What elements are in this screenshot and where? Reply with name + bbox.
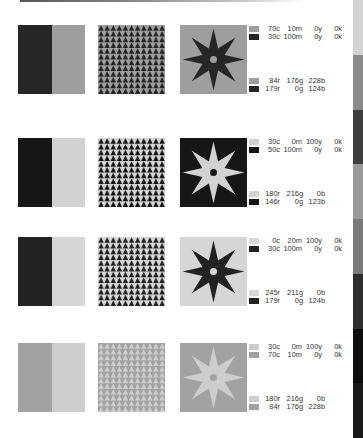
green-value: 0g	[280, 198, 303, 206]
green-value: 0g	[280, 85, 303, 93]
green-value: 176g	[280, 403, 303, 411]
magenta-value: 100m	[280, 146, 302, 154]
block-left-color	[18, 237, 52, 306]
split-color-block	[18, 237, 85, 306]
yellow-value: 0y	[302, 351, 322, 359]
color-swatch	[249, 404, 259, 410]
block-right-color	[52, 138, 86, 207]
yellow-value: 0y	[302, 33, 322, 41]
color-values-legend: 30c 0m 100y 0k 70c 10m 0y 0k 180r 216g 0…	[249, 343, 354, 413]
block-right-color	[52, 237, 86, 306]
block-left-color	[18, 25, 52, 94]
green-value: 0g	[280, 297, 303, 305]
magenta-value: 100m	[280, 33, 302, 41]
strip-band	[353, 383, 363, 438]
color-swatch	[249, 396, 259, 402]
swatch-row: 30c 0m 100y 0k 50c 100m 0y 0k 180r 216g …	[0, 138, 353, 208]
strip-band	[353, 55, 363, 110]
swatch-row: 30c 0m 100y 0k 70c 10m 0y 0k 180r 216g 0…	[0, 343, 353, 413]
strip-band	[353, 274, 363, 329]
color-swatch	[249, 34, 259, 40]
color-swatch	[249, 199, 259, 205]
black-value: 0k	[322, 351, 342, 359]
split-color-block	[18, 343, 85, 412]
block-right-color	[52, 343, 86, 412]
color-values-legend: 70c 10m 0y 0k 30c 100m 0y 0k 84r 176g 22…	[249, 25, 354, 95]
color-swatch	[249, 298, 259, 304]
color-swatch	[249, 246, 259, 252]
yellow-value: 0y	[302, 245, 322, 253]
cmyk-line: 70c 10m 0y 0k	[249, 351, 354, 359]
yellow-value: 0y	[302, 146, 322, 154]
cmyk-line: 30c 100m 0y 0k	[249, 245, 354, 253]
red-value: 146r	[261, 198, 280, 206]
cmyk-line: 30c 100m 0y 0k	[249, 33, 354, 41]
color-swatch	[249, 352, 259, 358]
cyan-value: 30c	[261, 245, 280, 253]
blue-value: 228b	[303, 403, 325, 411]
black-value: 0k	[322, 146, 342, 154]
color-swatch	[249, 344, 259, 350]
color-swatch	[249, 26, 259, 32]
color-swatch	[249, 290, 259, 296]
blue-value: 124b	[303, 85, 325, 93]
color-values-legend: 30c 0m 100y 0k 50c 100m 0y 0k 180r 216g …	[249, 138, 354, 208]
triangle-pattern	[98, 237, 165, 306]
star-icon	[180, 343, 247, 412]
red-value: 84r	[261, 403, 280, 411]
cyan-value: 50c	[261, 146, 280, 154]
strip-band	[353, 0, 363, 55]
red-value: 179r	[261, 297, 280, 305]
color-swatch	[249, 78, 259, 84]
red-value: 179r	[261, 85, 280, 93]
triangle-pattern	[98, 25, 165, 94]
top-rule	[20, 0, 305, 2]
strip-band	[353, 329, 363, 384]
block-left-color	[18, 343, 52, 412]
swatch-row: 70c 10m 0y 0k 30c 100m 0y 0k 84r 176g 22…	[0, 25, 353, 95]
split-color-block	[18, 25, 85, 94]
strip-band	[353, 219, 363, 274]
split-color-block	[18, 138, 85, 207]
color-swatch	[249, 191, 259, 197]
rgb-line: 84r 176g 228b	[249, 403, 354, 411]
swatch-row: 0c 20m 100y 0k 30c 100m 0y 0k 245r 211g …	[0, 237, 353, 307]
triangle-pattern	[98, 138, 165, 207]
strip-band	[353, 110, 363, 165]
cyan-value: 30c	[261, 33, 280, 41]
rgb-line: 179r 0g 124b	[249, 297, 354, 305]
strip-band	[353, 164, 363, 219]
black-value: 0k	[322, 245, 342, 253]
magenta-value: 10m	[280, 351, 302, 359]
blue-value: 123b	[303, 198, 325, 206]
star-icon	[180, 237, 247, 306]
color-values-legend: 0c 20m 100y 0k 30c 100m 0y 0k 245r 211g …	[249, 237, 354, 307]
block-right-color	[52, 25, 86, 94]
edge-color-strip	[353, 0, 363, 438]
magenta-value: 100m	[280, 245, 302, 253]
color-swatch	[249, 139, 259, 145]
cyan-value: 70c	[261, 351, 280, 359]
rgb-line: 146r 0g 123b	[249, 198, 354, 206]
block-left-color	[18, 138, 52, 207]
star-icon	[180, 138, 247, 207]
blue-value: 124b	[303, 297, 325, 305]
color-swatch	[249, 238, 259, 244]
cmyk-line: 50c 100m 0y 0k	[249, 146, 354, 154]
star-icon	[180, 25, 247, 94]
triangle-pattern	[98, 343, 165, 412]
black-value: 0k	[322, 33, 342, 41]
color-swatch	[249, 147, 259, 153]
rgb-line: 179r 0g 124b	[249, 85, 354, 93]
color-swatch	[249, 86, 259, 92]
